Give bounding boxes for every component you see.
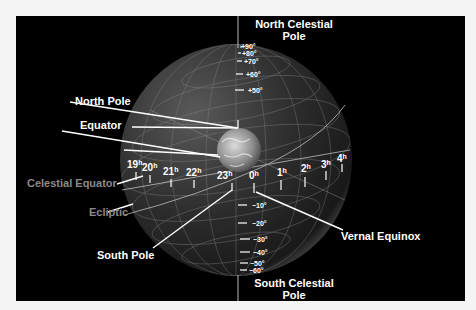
north-pole-label: North Pole — [75, 95, 131, 107]
south-celestial-pole-line1: South Celestial — [244, 277, 344, 289]
dec-label: −40° — [253, 249, 268, 257]
dec-label: +80° — [242, 50, 257, 58]
ra-label: 0h — [249, 171, 259, 181]
dec-label: −60° — [249, 267, 264, 275]
south-celestial-pole-label: South Celestial Pole — [244, 277, 344, 301]
dec-label: −30° — [253, 236, 268, 244]
north-pole-leader — [132, 127, 238, 128]
ra-label: 23h — [217, 171, 232, 181]
ra-label: 3h — [321, 160, 331, 170]
north-celestial-pole-line2: Pole — [248, 30, 340, 42]
celestial-equator-label: Celestial Equator — [27, 177, 117, 189]
vernal-equinox-label: Vernal Equinox — [341, 230, 420, 242]
ra-label: 20h — [142, 163, 157, 173]
dec-label: +50° — [248, 87, 263, 95]
south-celestial-pole-line2: Pole — [244, 289, 344, 301]
ra-label: 2h — [301, 164, 311, 174]
north-celestial-pole-label: North Celestial Pole — [248, 18, 340, 42]
ra-label: 21h — [163, 167, 178, 177]
earth — [217, 128, 261, 172]
ra-label: 19h — [127, 160, 142, 170]
ra-label: 1h — [277, 168, 287, 178]
equator-label: Equator — [80, 119, 122, 131]
ecliptic-label: Ecliptic — [89, 206, 128, 218]
north-celestial-pole-line1: North Celestial — [248, 18, 340, 30]
celestial-sphere-diagram — [0, 0, 476, 310]
ra-label: 22h — [186, 168, 201, 178]
dec-label: −10° — [252, 202, 267, 210]
south-pole-label: South Pole — [97, 249, 154, 261]
dec-label: +60° — [246, 71, 261, 79]
dec-label: −20° — [252, 220, 267, 228]
dec-label: +70° — [244, 58, 259, 66]
ra-label: 4h — [337, 154, 347, 164]
